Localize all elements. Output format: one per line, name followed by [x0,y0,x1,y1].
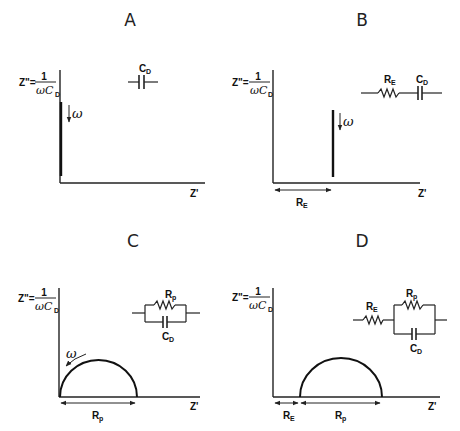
panel-b-y-axis-label: Z"= 1 ωC D [232,71,273,98]
svg-text:ωC: ωC [35,300,53,313]
panel-c: C Z"= 1 ωC D Z' ω R p [18,231,200,423]
svg-text:D: D [146,68,151,75]
panel-c-omega-label: ω [66,346,77,361]
svg-text:E: E [391,79,396,86]
panel-d-title: D [355,231,368,251]
panel-b-circuit-series-rc-icon [361,86,442,100]
panel-b: B Z"= 1 ωC D Z' ω R E R E C D [232,10,442,209]
panel-a-title: A [124,10,136,30]
panel-c-semicircle [60,360,137,397]
impedance-figure: A Z"= 1 ωC D Z' ω C D B Z"= 1 [0,0,460,431]
svg-text:p: p [99,415,103,423]
panel-d-x-axis-label: Z' [428,401,437,412]
svg-text:1: 1 [255,71,261,82]
panel-a: A Z"= 1 ωC D Z' ω C D [19,10,205,199]
svg-text:Z"=: Z"= [19,77,36,88]
svg-text:ωC: ωC [249,299,267,312]
svg-text:D: D [423,79,428,86]
svg-text:ωC: ωC [250,84,268,97]
svg-text:1: 1 [41,287,47,298]
svg-text:D: D [417,348,422,355]
svg-text:Z"=: Z"= [232,77,249,88]
panel-a-circuit-capacitor-icon [128,75,158,89]
svg-text:1: 1 [41,71,47,82]
panel-c-x-axis-label: Z' [190,401,199,412]
svg-text:Z"=: Z"= [18,293,35,304]
panel-a-y-axis-label: Z"= 1 ωC D [19,71,60,98]
svg-text:ωC: ωC [36,84,54,97]
panel-d-y-axis-label: Z"= 1 ωC D [232,286,273,313]
svg-text:D: D [169,336,174,343]
panel-d: D Z"= 1 ωC D Z' R E R p [232,231,447,423]
panel-d-semicircle [300,358,382,397]
svg-text:E: E [290,415,295,422]
svg-text:E: E [373,306,378,313]
svg-text:p: p [413,293,417,301]
panel-b-x-axis-label: Z' [418,188,427,199]
svg-text:p: p [172,294,176,302]
panel-b-omega-label: ω [343,114,354,129]
panel-c-y-axis-label: Z"= 1 ωC D [18,287,59,314]
svg-text:1: 1 [255,286,261,297]
panel-c-circuit-parallel-rc-icon [132,301,200,328]
svg-text:Z"=: Z"= [232,292,249,303]
panel-a-omega-label: ω [72,106,83,121]
svg-text:p: p [342,415,346,423]
panel-a-x-axis-label: Z' [190,188,199,199]
svg-text:E: E [303,202,308,209]
panel-b-title: B [356,10,368,30]
panel-c-title: C [127,231,139,251]
